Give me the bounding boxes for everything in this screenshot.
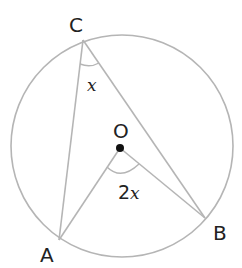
label-b: B: [213, 221, 227, 245]
label-a: A: [40, 243, 54, 267]
angle-label-o-var: x: [130, 183, 140, 203]
label-c: C: [69, 13, 83, 37]
angle-label-c: x: [87, 75, 97, 95]
label-o: O: [113, 119, 129, 143]
angle-arc-o: [107, 164, 139, 173]
angle-arc-c: [80, 63, 99, 66]
circle-theorem-diagram: C O A B x 2x: [0, 0, 242, 268]
angle-label-o-coef: 2: [118, 181, 130, 203]
chord-cb: [83, 40, 205, 218]
center-dot: [116, 144, 124, 152]
angle-label-o: 2x: [118, 181, 140, 203]
